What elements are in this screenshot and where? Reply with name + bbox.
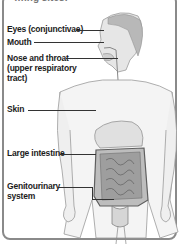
label-large-intestine: Large intestine	[7, 148, 64, 158]
leader-line-mouth	[34, 42, 104, 43]
leader-line-skin	[28, 110, 96, 111]
leader-line-nose-throat	[66, 58, 118, 59]
label-genitourinary: Genitourinary system	[7, 181, 60, 201]
leader-line-genitourinary-bottom	[92, 199, 114, 200]
label-skin: Skin	[7, 104, 24, 114]
label-mouth: Mouth	[7, 37, 32, 47]
leader-line-eyes	[76, 30, 104, 31]
leader-line-genitourinary	[58, 187, 92, 188]
leader-line-large-intestine	[60, 154, 96, 155]
label-eyes: Eyes (conjunctivae)	[7, 24, 83, 34]
leader-line-genitourinary-vertical	[92, 187, 93, 199]
